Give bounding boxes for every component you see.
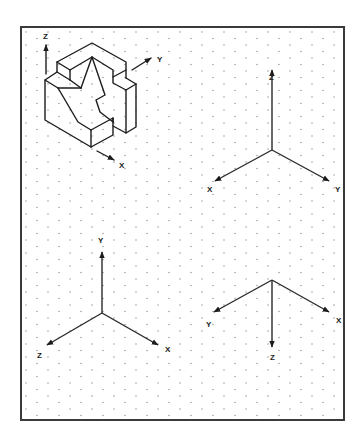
- z-axis-arrow: [47, 313, 102, 345]
- object-y-arrow: [132, 58, 151, 70]
- isometric-object: Z Y X: [43, 32, 163, 170]
- isometric-drawing: Z Y X Z X Y Y Z X Y X Z: [0, 0, 360, 436]
- object-z-label: Z: [43, 32, 48, 41]
- x-axis-label: X: [207, 185, 213, 194]
- axis-set-top-right: Z X Y: [207, 70, 341, 194]
- x-axis-arrow: [102, 313, 158, 345]
- y-axis-label: Y: [335, 185, 341, 194]
- z-axis-label: Z: [270, 353, 275, 362]
- axis-set-bottom-right: Y X Z: [206, 280, 342, 362]
- x-axis-label: X: [165, 345, 171, 354]
- axis-set-bottom-left: Y Z X: [37, 236, 171, 360]
- x-axis-arrow: [272, 280, 329, 312]
- x-axis-label: X: [336, 316, 342, 325]
- object-x-label: X: [119, 161, 125, 170]
- x-axis-arrow: [215, 150, 272, 181]
- y-axis-arrow: [214, 280, 272, 312]
- z-axis-label: Z: [37, 351, 42, 360]
- dot-grid: [25, 31, 334, 416]
- y-axis-label: Y: [98, 236, 104, 245]
- object-y-label: Y: [157, 55, 163, 64]
- z-axis-label: Z: [269, 73, 274, 82]
- y-axis-label: Y: [206, 320, 212, 329]
- y-axis-arrow: [272, 150, 329, 181]
- object-x-arrow: [97, 151, 114, 160]
- drawing-frame: [21, 27, 344, 420]
